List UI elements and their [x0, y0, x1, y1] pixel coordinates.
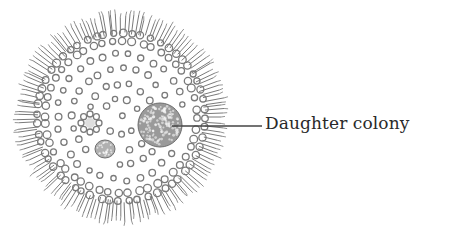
small-daughter-colony [95, 140, 115, 158]
volvox-diagram: Daughter colony [0, 0, 458, 228]
developing-daughter-colony [78, 111, 102, 135]
daughter-colony-label: Daughter colony [265, 113, 409, 133]
daughter-colony [138, 103, 182, 147]
